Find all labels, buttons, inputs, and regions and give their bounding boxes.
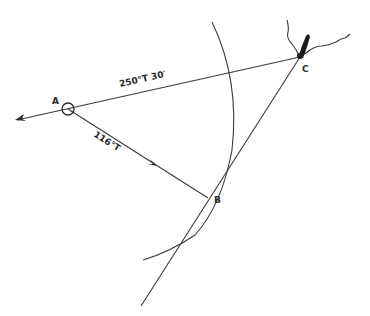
- course-line-a-b: [68, 109, 208, 198]
- label-c: C: [302, 64, 309, 74]
- bearing-line-c-a: [17, 57, 300, 120]
- coastline: [287, 20, 350, 56]
- line-c-b: [141, 57, 300, 306]
- point-c-marker: [297, 53, 303, 59]
- label-b: B: [214, 195, 221, 205]
- arrowhead-left-icon: [15, 114, 26, 121]
- range-arc: [143, 22, 234, 260]
- diagram-canvas: A B C 250°T 30′ 116°T: [0, 0, 370, 316]
- course-arrow-icon: [148, 159, 157, 166]
- bearing-label-a-c: 250°T 30′: [118, 69, 167, 89]
- bearing-label-a-b: 116°T: [92, 129, 123, 154]
- label-a: A: [52, 96, 59, 106]
